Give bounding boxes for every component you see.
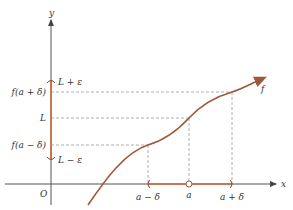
y-axis-label: y [48,8,55,18]
epsilon-delta-diagram: y x O f L + ε f(a + δ) L f(a − δ) L − ε … [0,0,293,210]
label-a-plus-delta: a + δ [220,192,244,202]
open-point-a [186,181,192,187]
x-axis-label: x [281,179,286,189]
label-L-plus-eps: L + ε [57,77,82,87]
origin-label: O [40,189,48,199]
guide-lines [51,92,232,184]
label-f-a-plus-delta: f(a + δ) [11,87,47,97]
curve-f [88,78,264,205]
label-a: a [186,190,191,200]
label-a-minus-delta: a − δ [136,192,160,202]
curve-label: f [260,84,266,94]
label-L: L [39,113,46,123]
label-f-a-minus-delta: f(a − δ) [11,140,47,150]
label-L-minus-eps: L − ε [57,155,82,165]
